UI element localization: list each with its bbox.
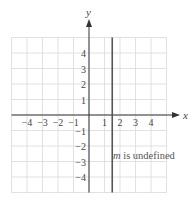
y-tick-label: 3 (81, 64, 86, 75)
y-axis-arrow-icon (86, 19, 92, 27)
annotation-text: is undefined (121, 150, 176, 161)
x-axis-label: x (182, 109, 188, 121)
x-tick-label: −2 (53, 117, 64, 128)
x-tick-label: 3 (133, 117, 138, 128)
y-tick-label: −1 (75, 126, 86, 137)
y-tick-label: −2 (75, 141, 86, 152)
x-axis-arrow-icon (172, 112, 180, 118)
y-axis-label: y (85, 6, 91, 18)
x-tick-label: −4 (22, 117, 33, 128)
y-tick-label: 4 (81, 48, 86, 59)
x-tick-label: 1 (102, 117, 107, 128)
annotation: m is undefined (113, 150, 176, 161)
y-tick-label: −3 (75, 157, 86, 168)
x-tick-label: −3 (37, 117, 48, 128)
y-tick-label: −4 (75, 172, 86, 183)
x-tick-label: 2 (118, 117, 123, 128)
axes (12, 19, 181, 193)
y-tick-label: 1 (81, 95, 86, 106)
coordinate-plane: −4−3−2−112344321−1−2−3−4 x y m is undefi… (0, 0, 196, 201)
y-tick-label: 2 (81, 79, 86, 90)
x-tick-label: 4 (149, 117, 154, 128)
